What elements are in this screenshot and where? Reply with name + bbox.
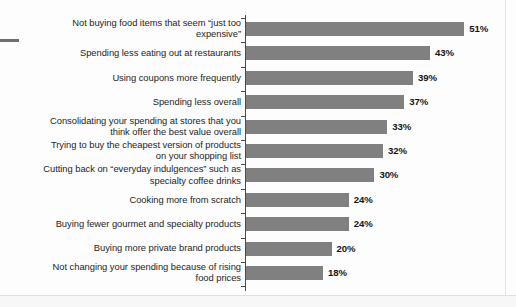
bar	[246, 193, 349, 207]
bar-chart-plot-area: Not buying food items that seem “just to…	[0, 9, 505, 291]
bar	[246, 266, 323, 280]
bar-value-label: 20%	[337, 242, 356, 256]
bar-value-label: 24%	[354, 217, 373, 231]
bar-category-label: Trying to buy the cheapest version of pr…	[15, 139, 241, 162]
bar	[246, 95, 404, 109]
bar-category-label: Cooking more from scratch	[15, 194, 241, 206]
chart-page: Not buying food items that seem “just to…	[0, 0, 516, 307]
bar-category-label: Spending less overall	[15, 96, 241, 108]
figure-border-right	[505, 0, 506, 296]
bar-category-label: Using coupons more frequently	[15, 72, 241, 84]
bar-value-label: 33%	[392, 120, 411, 134]
bar	[246, 168, 374, 182]
bar	[246, 46, 430, 60]
bar	[246, 242, 332, 256]
axis-tick	[241, 91, 246, 92]
axis-tick	[241, 213, 246, 214]
axis-tick	[241, 42, 246, 43]
axis-tick	[241, 164, 246, 165]
bar-category-label: Buying more private brand products	[15, 242, 241, 254]
bar	[246, 22, 464, 36]
axis-tick	[241, 67, 246, 68]
bar-category-label: Spending less eating out at restaurants	[15, 47, 241, 59]
axis-tick-end	[241, 286, 246, 287]
bar-value-label: 24%	[354, 193, 373, 207]
axis-tick	[241, 140, 246, 141]
bar-value-label: 18%	[328, 266, 347, 280]
bar-category-label: Cutting back on “everyday indulgences” s…	[15, 163, 241, 186]
bar-value-label: 43%	[435, 46, 454, 60]
bar-category-label: Buying fewer gourmet and specialty produ…	[15, 218, 241, 230]
bar-category-label: Not buying food items that seem “just to…	[15, 17, 241, 40]
bar-value-label: 30%	[379, 168, 398, 182]
axis-tick	[241, 238, 246, 239]
bar-value-label: 51%	[469, 22, 488, 36]
axis-tick	[241, 262, 246, 263]
figure-bottom-shade	[0, 296, 516, 307]
bar-category-label: Not changing your spending because of ri…	[15, 261, 241, 284]
bar-value-label: 37%	[409, 95, 428, 109]
bar-category-label: Consolidating your spending at stores th…	[15, 115, 241, 138]
bar-value-label: 32%	[388, 144, 407, 158]
bar	[246, 144, 383, 158]
axis-tick	[241, 116, 246, 117]
bar	[246, 71, 413, 85]
bar	[246, 120, 387, 134]
axis-tick	[241, 18, 246, 19]
axis-tick	[241, 189, 246, 190]
bar-value-label: 39%	[418, 71, 437, 85]
bar	[246, 217, 349, 231]
